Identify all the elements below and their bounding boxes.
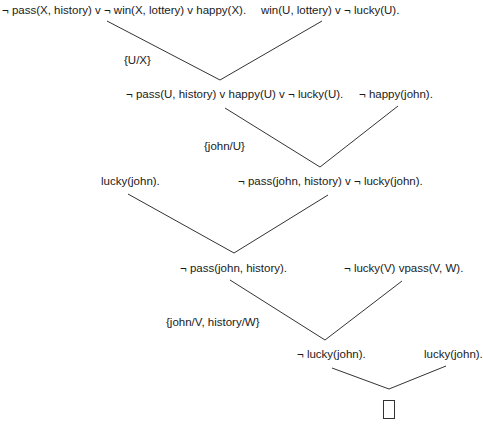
clause-resolvent-1: ¬ pass(U, history) v happy(U) v ¬ lucky(… [126, 87, 343, 101]
clause-premise-negated-goal: ¬ happy(john). [359, 87, 433, 101]
clause-premise-5: lucky(john). [424, 347, 483, 361]
edge-c6-to-c7 [234, 195, 328, 253]
edge-c8-to-c9 [325, 281, 402, 340]
substitution-label-2: {john/U} [204, 139, 245, 153]
clause-resolvent-2: ¬ pass(john, history) v ¬ lucky(john). [238, 174, 423, 188]
substitution-label-1: {U/X} [124, 53, 151, 67]
edge-c9-to-empty [332, 368, 389, 389]
clause-premise-3: lucky(john). [101, 174, 160, 188]
edge-c7-to-c9 [230, 280, 325, 340]
edge-c3-to-c6 [225, 108, 320, 167]
empty-clause-box [383, 400, 395, 419]
edge-c1-to-c3 [107, 21, 220, 80]
edge-c10-to-empty [389, 366, 446, 389]
clause-resolvent-3: ¬ pass(john, history). [180, 261, 287, 275]
edge-c2-to-c3 [220, 21, 322, 80]
edge-c5-to-c7 [128, 194, 234, 253]
clause-premise-1: ¬ pass(X, history) v ¬ win(X, lottery) v… [2, 3, 246, 17]
edge-c4-to-c6 [320, 106, 398, 167]
substitution-label-3: {john/V, history/W} [166, 315, 260, 329]
clause-resolvent-4: ¬ lucky(john). [297, 347, 366, 361]
clause-premise-2: win(U, lottery) v ¬ lucky(U). [261, 3, 399, 17]
clause-premise-4: ¬ lucky(V) vpass(V, W). [344, 261, 463, 275]
